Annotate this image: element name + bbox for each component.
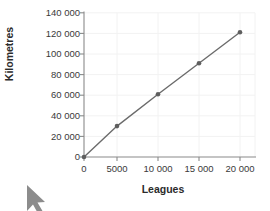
y-axis-title: Kilometres xyxy=(3,46,15,62)
y-axis-title-text: Kilometres xyxy=(3,4,15,104)
x-axis-title: Leagues xyxy=(84,183,242,195)
chart-figure: 140 000 120 000 100 000 80 000 60 000 40… xyxy=(0,0,270,211)
x-tick-labels: 0 5000 10 000 15 000 20 000 xyxy=(0,0,270,190)
x-tick-label: 20 000 xyxy=(210,164,270,174)
